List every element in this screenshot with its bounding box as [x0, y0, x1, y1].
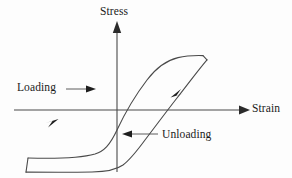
stress-strain-diagram: Stress Strain Loading Unloading [0, 0, 292, 178]
direction-arrow-down-left-icon [171, 89, 184, 98]
loading-branch-path [28, 56, 203, 159]
loading-annotation-label: Loading [17, 82, 56, 94]
loop-right-closure-path [203, 56, 207, 60]
axes-group [14, 21, 250, 172]
loop-left-closure-path [26, 158, 28, 172]
unloading-annotation-label: Unloading [162, 129, 211, 141]
direction-arrow-up-right-icon [46, 119, 59, 128]
annotation-leaders-group [66, 86, 158, 138]
axis-arrow-right-icon [239, 106, 250, 115]
x-axis-label: Strain [252, 103, 280, 115]
direction-markers-group [46, 89, 184, 128]
pointer-arrow-left-icon [122, 131, 132, 138]
axis-arrow-up-icon [113, 21, 121, 33]
y-axis-label: Stress [100, 6, 128, 18]
pointer-arrow-right-icon [86, 86, 96, 93]
